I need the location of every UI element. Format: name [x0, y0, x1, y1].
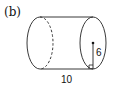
cylinder-diagram: 6 10: [0, 0, 116, 85]
length-label: 10: [61, 74, 73, 85]
radius-label: 6: [96, 47, 102, 58]
left-end-dashed: [40, 17, 53, 69]
left-end-solid: [27, 17, 40, 69]
